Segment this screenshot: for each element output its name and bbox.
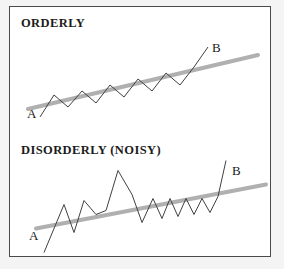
panel-disorderly: DISORDERLY (NOISY) A B xyxy=(10,135,272,258)
price-series-disorderly xyxy=(44,161,226,253)
point-label-a-orderly: A xyxy=(27,106,36,122)
panel-orderly: ORDERLY A B xyxy=(10,7,272,135)
point-label-b-disorderly: B xyxy=(232,163,241,179)
chart-orderly xyxy=(10,7,272,135)
figure-frame: ORDERLY A B DISORDERLY (NOISY) A B xyxy=(9,6,271,257)
point-label-b-orderly: B xyxy=(212,40,221,56)
point-label-a-disorderly: A xyxy=(29,228,38,244)
figure-canvas: ORDERLY A B DISORDERLY (NOISY) A B xyxy=(0,0,284,269)
price-series-orderly xyxy=(40,47,208,117)
chart-disorderly xyxy=(10,135,272,263)
trend-line-orderly xyxy=(28,55,258,109)
